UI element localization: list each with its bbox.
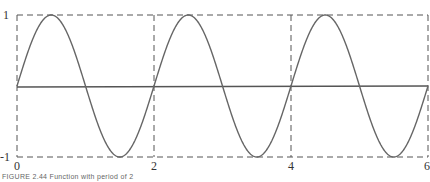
figure-caption: FIGURE 2.44 Function with period of 2 xyxy=(2,173,133,180)
x-tick-2: 2 xyxy=(151,160,157,172)
sine-chart xyxy=(0,0,430,182)
x-tick-6: 6 xyxy=(424,160,430,172)
x-tick-4: 4 xyxy=(288,160,294,172)
x-tick-0: 0 xyxy=(14,160,20,172)
y-tick-bottom: -1 xyxy=(0,151,10,163)
y-tick-top: 1 xyxy=(3,9,9,21)
